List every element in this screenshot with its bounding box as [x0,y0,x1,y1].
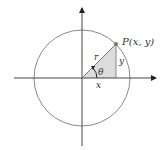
angle-label: θ [98,67,104,77]
unit-circle-diagram: P(x, y) r θ x y [0,0,167,150]
y-label: y [118,56,125,66]
x-label: x [96,80,101,90]
radius-label: r [94,52,99,62]
point-label: P(x, y) [121,36,154,47]
point-p [114,42,118,46]
